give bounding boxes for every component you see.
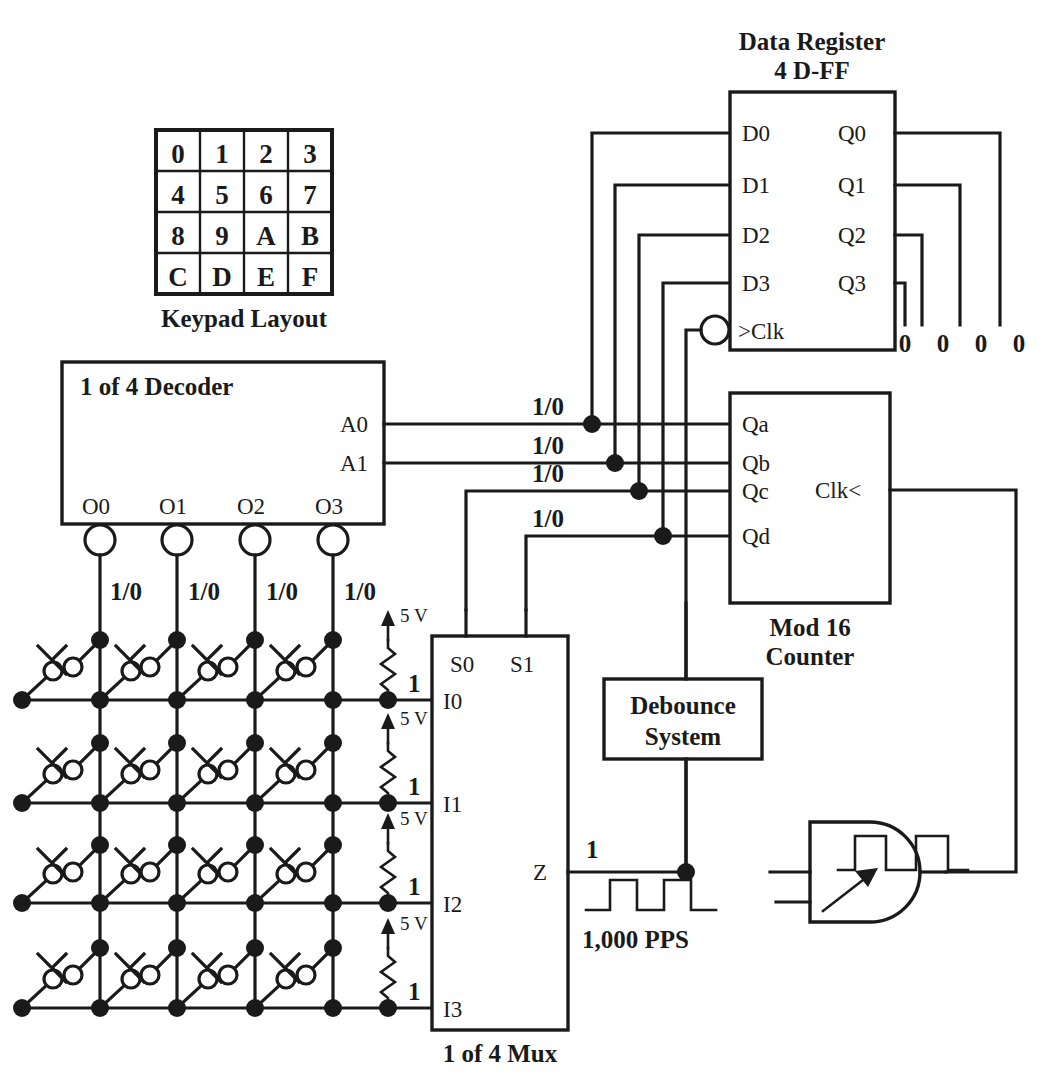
register-output-value: 0 <box>937 330 950 357</box>
pin-q3: Q3 <box>838 271 866 296</box>
pullup-level-label: 1 <box>408 978 421 1005</box>
pin-o3: O3 <box>315 494 343 519</box>
pullup-resistor <box>379 918 397 1017</box>
pin-o2: O2 <box>237 494 265 519</box>
pin-a0: A0 <box>340 412 368 437</box>
pin-d3: D3 <box>742 271 770 296</box>
keypad-cell: 4 <box>171 180 185 210</box>
keypad-cell: 1 <box>215 139 229 169</box>
counter-output-signal: 1/0 <box>532 460 564 487</box>
pin-counter-clk: Clk< <box>815 478 861 503</box>
pin-d2: D2 <box>742 223 770 248</box>
pin-d0: D0 <box>742 121 770 146</box>
keypad-cell: 3 <box>303 139 317 169</box>
mux-select-wiring <box>466 491 730 610</box>
pullup-resistor <box>379 610 397 709</box>
key-switch[interactable] <box>219 939 299 1017</box>
keypad-cell: E <box>257 262 275 292</box>
decoder-output-signal: 1/0 <box>344 578 376 605</box>
input-waveform <box>586 880 716 910</box>
counter-output-signal: 1/0 <box>532 505 564 532</box>
pin-i3: I3 <box>443 997 462 1022</box>
pin-q2: Q2 <box>838 223 866 248</box>
pin-register-clk: >Clk <box>738 319 785 344</box>
decoder-title: 1 of 4 Decoder <box>80 373 233 400</box>
keypad-cell: 6 <box>259 180 273 210</box>
data-register-title-line2: 4 D-FF <box>774 57 850 84</box>
key-switch[interactable] <box>219 631 299 709</box>
pullup-resistor <box>379 813 397 912</box>
keypad-cell: F <box>302 262 319 292</box>
keypad-cell: A <box>256 221 276 251</box>
register-output-wiring <box>895 133 1000 325</box>
data-register-title-line1: Data Register <box>739 28 885 55</box>
register-output-value: 0 <box>899 330 912 357</box>
key-switch[interactable] <box>219 836 299 912</box>
decoder-output-signal: 1/0 <box>188 578 220 605</box>
key-switch[interactable] <box>297 631 342 709</box>
pullup-voltage-label: 5 V <box>400 605 428 626</box>
pullup-resistors <box>379 610 397 1017</box>
key-switch[interactable] <box>219 734 299 812</box>
pin-s0: S0 <box>450 652 474 677</box>
pin-q0: Q0 <box>838 121 866 146</box>
pin-q1: Q1 <box>838 173 866 198</box>
pullup-level-label: 1 <box>408 773 421 800</box>
key-switch[interactable] <box>297 734 342 812</box>
pullup-level-label: 1 <box>408 670 421 697</box>
pullup-voltage-label: 5 V <box>400 913 428 934</box>
key-switch[interactable] <box>141 734 221 812</box>
decoder-output-signal: 1/0 <box>266 578 298 605</box>
key-switch[interactable] <box>141 939 221 1017</box>
clock-source-label: 1,000 PPS <box>582 926 689 953</box>
keypad-cell: 5 <box>215 180 229 210</box>
pin-s1: S1 <box>510 652 534 677</box>
pin-i2: I2 <box>443 892 462 917</box>
debounce-title-line2: System <box>645 723 722 750</box>
keypad-cell: 7 <box>303 180 317 210</box>
keypad-cell: D <box>212 262 232 292</box>
key-switch[interactable] <box>64 836 144 912</box>
pin-qb: Qb <box>742 451 770 476</box>
keypad-cell: 9 <box>215 221 229 251</box>
key-switch[interactable] <box>64 734 144 812</box>
circuit-schematic: 0 1 2 3 4 5 6 7 8 9 A B C D E F Keypad L… <box>0 0 1056 1091</box>
keypad-cell: 0 <box>171 139 185 169</box>
pin-a1: A1 <box>340 451 368 476</box>
keypad-cell: C <box>168 262 188 292</box>
keypad-cell: 8 <box>171 221 185 251</box>
register-output-value: 0 <box>975 330 988 357</box>
pullup-resistor <box>379 713 397 812</box>
pin-i1: I1 <box>443 792 462 817</box>
keypad-caption: Keypad Layout <box>161 305 328 332</box>
pin-o1: O1 <box>159 494 187 519</box>
key-switch[interactable] <box>141 631 221 709</box>
key-switch[interactable] <box>297 836 342 912</box>
key-switch[interactable] <box>64 631 144 709</box>
pullup-voltage-label: 5 V <box>400 808 428 829</box>
decoder-output-signal: 1/0 <box>110 578 142 605</box>
counter-output-signal: 1/0 <box>532 432 564 459</box>
switch-matrix[interactable] <box>13 631 432 1017</box>
pin-i0: I0 <box>443 689 462 714</box>
pin-d1: D1 <box>742 173 770 198</box>
counter-caption-line2: Counter <box>766 643 855 670</box>
pullup-voltage-label: 5 V <box>400 708 428 729</box>
key-switch[interactable] <box>64 939 144 1017</box>
pin-qd: Qd <box>742 524 771 549</box>
mux-output-value: 1 <box>586 836 599 863</box>
counter-output-signal: 1/0 <box>532 393 564 420</box>
keypad-cell: 2 <box>259 139 273 169</box>
key-switch[interactable] <box>297 939 342 1017</box>
circuit-diagram-canvas: 0 1 2 3 4 5 6 7 8 9 A B C D E F Keypad L… <box>0 0 1056 1091</box>
pin-qa: Qa <box>742 412 769 437</box>
keypad-cell: B <box>301 221 319 251</box>
debounce-title-line1: Debounce <box>630 692 736 719</box>
mux-caption: 1 of 4 Mux <box>443 1040 558 1067</box>
pullup-level-label: 1 <box>408 873 421 900</box>
key-switch[interactable] <box>141 836 221 912</box>
pin-qc: Qc <box>742 479 769 504</box>
pin-z: Z <box>533 860 547 885</box>
pin-o0: O0 <box>82 494 110 519</box>
register-output-value: 0 <box>1013 330 1026 357</box>
